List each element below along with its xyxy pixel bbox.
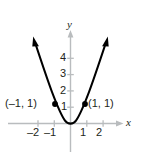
x-tick-label-2: 2 <box>96 127 102 138</box>
point-annotation-left: (–1, 1) <box>5 98 37 109</box>
y-tick-label-2: 2 <box>60 85 66 96</box>
y-tick-label-4: 4 <box>60 52 66 63</box>
x-tick-label-1: 1 <box>80 127 86 138</box>
x-axis-label: x <box>126 117 131 128</box>
x-axis-arrow-icon <box>116 121 124 127</box>
curve-left-arrow-icon <box>32 37 39 47</box>
x-tick-label-minus2: –2 <box>27 127 39 138</box>
data-point-marker <box>52 101 58 107</box>
parabola-figure: y x 4 3 2 1 –2 –1 1 2 (–1, 1) (1, 1) <box>0 0 145 159</box>
curve-right-arrow-icon <box>102 37 109 47</box>
y-axis-label: y <box>67 19 72 30</box>
y-tick-label-3: 3 <box>60 68 66 79</box>
point-annotation-right: (1, 1) <box>88 98 114 109</box>
y-axis-arrow-icon <box>68 30 74 38</box>
plot-canvas <box>0 0 145 159</box>
y-tick-label-1: 1 <box>61 101 67 112</box>
x-tick-label-minus1: –1 <box>44 127 56 138</box>
